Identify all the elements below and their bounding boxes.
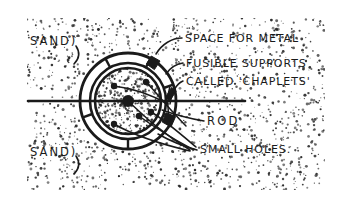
diagram-page: SAND) SAND) SPACE FOR METAL FUSIBLE SUPP… (0, 0, 348, 209)
label-rod: ROD (207, 116, 240, 128)
label-sand-bottom: SAND) (30, 147, 77, 159)
label-small-holes: SMALL HOLES. (200, 144, 291, 155)
label-called-chaplets: CALLED 'CHAPLETS' (186, 76, 311, 87)
label-fusible-supports: FUSIBLE SUPPORTS (186, 58, 307, 69)
label-space-for-metal: SPACE FOR METAL (185, 33, 299, 44)
label-sand-top: SAND) (30, 36, 77, 48)
